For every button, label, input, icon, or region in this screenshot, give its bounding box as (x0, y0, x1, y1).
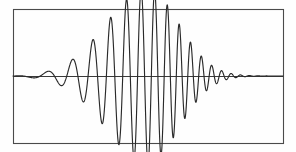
wave-packet-figure (0, 0, 296, 152)
plot-canvas (0, 0, 296, 152)
